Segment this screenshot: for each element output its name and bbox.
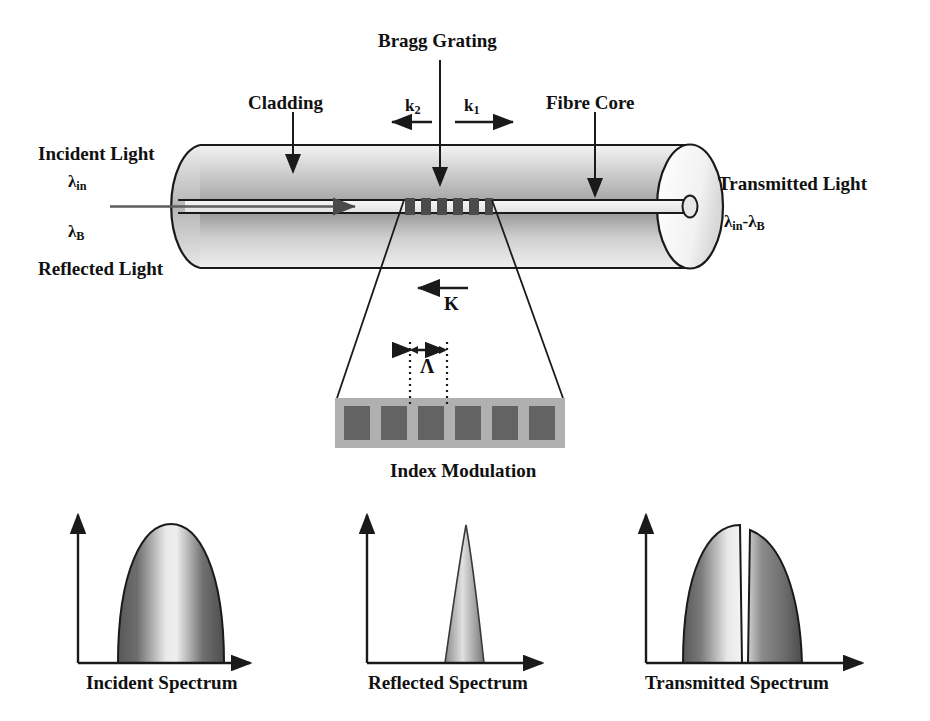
lambda-b-symbol: λB bbox=[68, 222, 85, 244]
cladding-label: Cladding bbox=[248, 92, 323, 114]
k1-subscript: 1 bbox=[473, 103, 479, 117]
k2-subscript: 2 bbox=[414, 103, 420, 117]
index-modulation-block bbox=[335, 398, 565, 448]
K-symbol: K bbox=[444, 293, 459, 315]
reflected-curve bbox=[445, 525, 484, 663]
bragg-grating-label: Bragg Grating bbox=[378, 30, 497, 52]
lambda-trans-subscript-2: B bbox=[757, 219, 765, 233]
lambda-in-subscript: in bbox=[76, 179, 86, 193]
index-modulation-label: Index Modulation bbox=[390, 460, 536, 482]
transmitted-light-label: Transmitted Light bbox=[718, 173, 867, 195]
lambda-transmitted-symbol: λin-λB bbox=[724, 212, 765, 234]
spectra-svg bbox=[0, 500, 930, 690]
chart-incident-spectrum bbox=[78, 515, 250, 663]
chart-reflected-spectrum bbox=[367, 515, 542, 663]
incident-light-label: Incident Light bbox=[38, 143, 155, 165]
fibre-diagram-svg bbox=[0, 0, 930, 500]
transmitted-left-lobe bbox=[683, 525, 742, 663]
reflected-light-label: Reflected Light bbox=[38, 258, 163, 280]
transmitted-spectrum-caption: Transmitted Spectrum bbox=[645, 672, 829, 694]
fibre-core-label: Fibre Core bbox=[546, 92, 634, 114]
transmitted-right-lobe bbox=[748, 530, 802, 663]
reflected-spectrum-caption: Reflected Spectrum bbox=[368, 672, 528, 694]
lambda-trans-middle: -λ bbox=[743, 212, 757, 231]
lambda-b-subscript: B bbox=[76, 229, 84, 243]
k1-symbol: k1 bbox=[464, 96, 480, 118]
lambda-in-symbol: λin bbox=[68, 172, 87, 194]
incident-curve bbox=[118, 524, 224, 663]
lambda-trans-subscript-1: in bbox=[732, 219, 742, 233]
figure-root: Bragg Grating Cladding Fibre Core Incide… bbox=[0, 0, 930, 721]
chart-transmitted-spectrum bbox=[646, 515, 862, 663]
k2-symbol: k2 bbox=[405, 96, 421, 118]
period-symbol: Λ bbox=[420, 355, 434, 378]
incident-spectrum-caption: Incident Spectrum bbox=[86, 672, 237, 694]
